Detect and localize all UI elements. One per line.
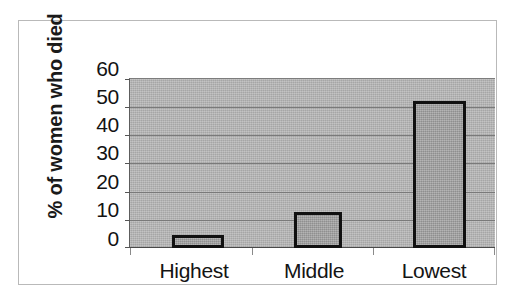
x-axis-label-highest: Highest	[129, 259, 259, 283]
y-axis-title: % of women who died	[44, 19, 67, 219]
x-axis-label-middle: Middle	[254, 259, 374, 283]
y-tick-label-40: 40	[71, 114, 119, 135]
y-tick-mark-60	[125, 79, 130, 80]
y-tick-label-50: 50	[71, 86, 119, 107]
x-tick-mark-0	[130, 248, 131, 255]
y-tick-label-60: 60	[71, 58, 119, 79]
x-tick-mark-2	[373, 248, 374, 255]
y-tick-label-20: 20	[71, 171, 119, 192]
y-tick-mark-30	[125, 163, 130, 164]
y-tick-mark-20	[125, 192, 130, 193]
plot-area	[129, 78, 495, 248]
chart-screenshot: % of women who died 60 50 40 30 20 10 0	[0, 0, 517, 306]
y-tick-mark-40	[125, 135, 130, 136]
y-tick-mark-10	[125, 220, 130, 221]
bar-middle	[294, 212, 342, 248]
y-tick-label-0: 0	[71, 228, 119, 249]
y-axis-tick-labels: 60 50 40 30 20 10 0	[71, 58, 119, 248]
x-axis-labels: Highest Middle Lowest	[129, 259, 494, 293]
bar-highest	[172, 235, 224, 248]
chart-frame: % of women who died 60 50 40 30 20 10 0	[18, 20, 497, 285]
x-axis-label-lowest: Lowest	[374, 259, 494, 283]
x-tick-mark-3	[494, 248, 495, 255]
y-tick-label-10: 10	[71, 199, 119, 220]
x-tick-mark-1	[252, 248, 253, 255]
bar-lowest	[413, 101, 466, 248]
y-tick-label-30: 30	[71, 142, 119, 163]
y-tick-mark-50	[125, 107, 130, 108]
